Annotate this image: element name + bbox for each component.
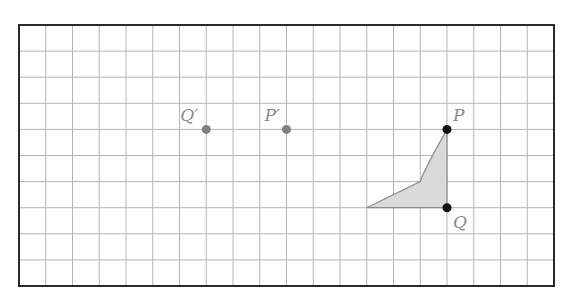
shaded-triangle [367, 129, 447, 207]
point-label: Q [453, 212, 467, 232]
point-marker [202, 125, 211, 134]
translation-grid-diagram: PQP′Q′ [0, 0, 564, 302]
point-marker [282, 125, 291, 134]
grid-lines [19, 25, 554, 286]
point-label: P′ [264, 105, 280, 125]
point-marker [443, 203, 452, 212]
point-marker [443, 125, 452, 134]
points-layer: PQP′Q′ [180, 105, 467, 231]
point-label: P [452, 105, 465, 125]
point-label: Q′ [180, 105, 198, 125]
